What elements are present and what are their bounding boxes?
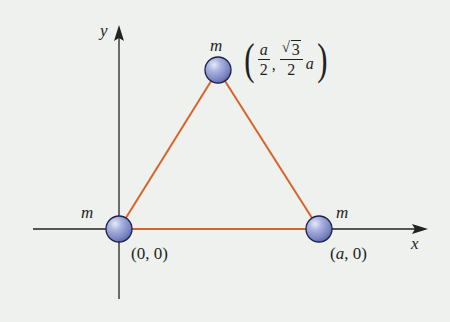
y-axis <box>114 25 124 299</box>
y-axis-label: y <box>100 22 108 39</box>
y-denominator: 2 <box>287 60 295 78</box>
coord-label-origin: (0, 0) <box>131 245 168 262</box>
x-denominator: 2 <box>260 60 268 78</box>
triangle <box>119 70 319 229</box>
mass-sphere-origin <box>106 216 132 242</box>
mass-label-top: m <box>210 37 222 54</box>
x-axis-label: x <box>411 235 419 252</box>
comma: , <box>272 56 276 74</box>
right-paren: ) <box>317 38 327 82</box>
mass-label-origin: m <box>81 204 93 221</box>
x-numerator: a <box>258 42 270 60</box>
mass-sphere-top <box>205 57 231 83</box>
diagram-canvas <box>0 0 450 322</box>
radical-sign-icon: √ <box>282 40 290 55</box>
coord-label-top: ( a 2 , √ 3 2 a ) <box>242 38 329 82</box>
sqrt: √ 3 <box>282 41 301 58</box>
coord-label-right-text: (a, 0) <box>330 244 367 263</box>
mass-sphere-right <box>306 216 332 242</box>
left-paren: ( <box>244 38 254 82</box>
diagram-stage: y x m m m (0, 0) (a, 0) ( a 2 , √ 3 2 a … <box>0 0 450 322</box>
y-numerator: √ 3 <box>280 42 303 60</box>
mass-label-right: m <box>336 204 348 221</box>
y-fraction: √ 3 2 <box>280 42 303 78</box>
y-factor: a <box>306 55 314 73</box>
x-fraction: a 2 <box>258 42 270 78</box>
radicand: 3 <box>291 40 301 58</box>
coord-label-right: (a, 0) <box>330 245 367 262</box>
